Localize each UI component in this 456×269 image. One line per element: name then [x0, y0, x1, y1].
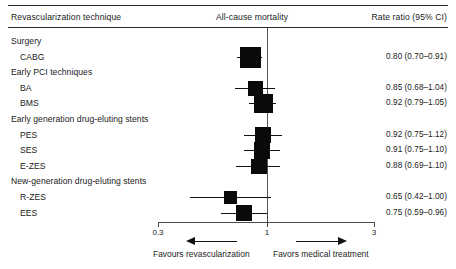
row-rate-ratio-value: 0.91 (0.75–1.10)	[386, 145, 447, 154]
effect-estimate-marker	[236, 205, 252, 221]
effect-estimate-marker	[255, 127, 272, 144]
left-arrow-icon	[186, 237, 195, 245]
x-axis-tick-null	[267, 217, 268, 227]
column-header-technique: Revascularization technique	[11, 12, 121, 22]
row-study-label: BMS	[20, 98, 39, 108]
footer-caption-right: Favors medical treatment	[273, 249, 369, 259]
row-group-label: Surgery	[11, 36, 41, 46]
null-effect-line	[267, 28, 268, 222]
header-rule-bottom	[8, 27, 448, 28]
row-study-label: R-ZES	[20, 192, 46, 202]
effect-estimate-marker	[240, 47, 261, 68]
row-study-label: PES	[20, 130, 37, 140]
row-rate-ratio-value: 0.65 (0.42–1.00)	[386, 192, 447, 201]
x-axis-tick-low	[158, 222, 159, 227]
row-study-label: E-ZES	[20, 161, 46, 171]
row-study-label: BA	[20, 83, 32, 93]
favours-medical-arrow-line	[296, 241, 338, 242]
row-rate-ratio-value: 0.85 (0.68–1.04)	[386, 83, 447, 92]
x-axis-label-null: 1	[265, 228, 269, 237]
row-rate-ratio-value: 0.92 (0.75–1.12)	[386, 130, 447, 139]
x-axis-label-low: 0.3	[152, 228, 163, 237]
header-rule-top	[8, 5, 448, 6]
effect-estimate-marker	[251, 159, 267, 175]
column-header-outcome: All-cause mortality	[216, 12, 288, 22]
row-study-label: CABG	[20, 52, 45, 62]
effect-estimate-marker	[254, 142, 271, 159]
row-group-label: Early generation drug-eluting stents	[11, 114, 148, 124]
x-axis-tick-high	[374, 222, 375, 227]
row-rate-ratio-value: 0.75 (0.59–0.96)	[386, 208, 447, 217]
row-rate-ratio-value: 0.80 (0.70–0.91)	[386, 52, 447, 61]
favours-revascularization-arrow-line	[195, 241, 237, 242]
column-header-rateratio: Rate ratio (95% CI)	[372, 12, 447, 22]
row-rate-ratio-value: 0.88 (0.69–1.10)	[386, 161, 447, 170]
row-group-label: New-generation drug-eluting stents	[11, 176, 146, 186]
effect-estimate-marker	[224, 191, 237, 204]
forest-plot: Revascularization technique All-cause mo…	[0, 0, 456, 269]
footer-caption-left: Favours revascularization	[153, 249, 250, 259]
right-arrow-icon	[338, 237, 347, 245]
effect-estimate-marker	[254, 94, 273, 113]
row-study-label: EES	[20, 208, 37, 218]
row-rate-ratio-value: 0.92 (0.79–1.05)	[386, 98, 447, 107]
x-axis-label-high: 3	[372, 228, 376, 237]
row-group-label: Early PCI techniques	[11, 67, 92, 77]
row-study-label: SES	[20, 145, 37, 155]
